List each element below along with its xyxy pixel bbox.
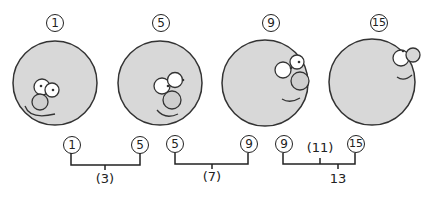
bracket-2-right-label: 9: [240, 135, 258, 153]
frame-9-disc: [222, 40, 309, 126]
bracket-3-top-middle-label: (11): [304, 141, 336, 154]
bracket-2-left-label: 5: [166, 135, 184, 153]
frame-1-disc: [13, 41, 97, 125]
frame-label-9: 9: [262, 14, 280, 32]
bracket-3-left-label: 9: [275, 135, 293, 153]
bracket-2-middle-label: (7): [200, 170, 224, 183]
frame-label-1: 1: [46, 14, 64, 32]
frame-label-15: 15: [370, 14, 388, 32]
frame-15-disc: [329, 39, 420, 125]
bracket-3-middle-label: 13: [328, 172, 348, 185]
bracket-9-15: [283, 153, 355, 169]
bracket-1-left-label: 1: [63, 136, 81, 154]
bracket-1-middle-label: (3): [93, 172, 117, 185]
bracket-5-9: [175, 153, 248, 169]
frame-5-disc: [118, 41, 202, 125]
bracket-3-right-label: 15: [347, 135, 365, 153]
frame-label-5: 5: [152, 14, 170, 32]
bracket-1-right-label: 5: [131, 136, 149, 154]
bracket-1-5: [71, 153, 140, 170]
